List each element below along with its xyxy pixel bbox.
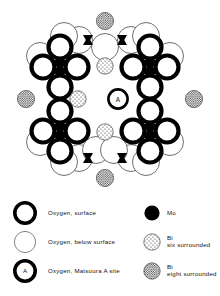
- oxygen-surface: [32, 56, 55, 79]
- bi-eight-surrounded: [96, 169, 113, 186]
- oxygen-surface: [139, 100, 162, 123]
- structure-diagram: A: [0, 0, 220, 196]
- legend-item-bi-six: Bi six surrounded: [167, 234, 210, 248]
- oxygen-surface: [49, 140, 72, 163]
- bi-eight-surrounded: [17, 90, 34, 107]
- matsuura-a-site-label: A: [116, 96, 121, 103]
- legend-label-bi-six-line2: six surrounded: [167, 241, 210, 248]
- oxygen-surface: [49, 36, 72, 59]
- legend-label-oxygen-surface: Oxygen, surface: [48, 209, 96, 216]
- bi-eight-surrounded: [185, 90, 202, 107]
- oxygen-surface: [139, 36, 162, 59]
- legend-item-oxygen-below-surface: Oxygen, below surface: [48, 238, 115, 245]
- legend-label-bi-eight-line2: eight surrounded: [167, 270, 217, 277]
- bi-eight-surrounded: [96, 12, 113, 29]
- oxygen-surface: [156, 56, 179, 79]
- legend-bi-eight-icon: [144, 263, 160, 279]
- oxygen-surface: [49, 76, 72, 99]
- structure-diagram-svg: A: [0, 0, 220, 196]
- legend-mo-icon: [144, 205, 159, 220]
- legend-label-mo: Mo: [167, 209, 176, 216]
- oxygen-surface: [122, 120, 145, 143]
- legend-bi-six-icon: [144, 234, 160, 250]
- legend-label-oxygen-below-surface: Oxygen, below surface: [48, 238, 115, 245]
- legend-label-bi-eight-line1: Bi: [167, 263, 173, 270]
- legend-label-oxygen-matsuura-a: Oxygen, Matsuura A site: [48, 267, 120, 274]
- oxygen-below-surface: [92, 34, 119, 61]
- legend-item-mo: Mo: [167, 209, 176, 216]
- legend-oxygen-surface-icon: [15, 203, 35, 223]
- oxygen-surface: [122, 56, 145, 79]
- oxygen-surface: [66, 120, 89, 143]
- matsuura-a-site: A: [108, 89, 127, 108]
- oxygen-surface: [49, 100, 72, 123]
- legend-label-bi-six-line1: Bi: [167, 234, 173, 241]
- bi-six-surrounded: [97, 58, 113, 74]
- figure-root: A A: [0, 0, 220, 296]
- legend-item-oxygen-matsuura-a: Oxygen, Matsuura A site: [48, 267, 120, 274]
- oxygen-surface: [139, 140, 162, 163]
- oxygen-surface: [32, 120, 55, 143]
- bi-six-surrounded: [70, 91, 86, 107]
- legend: A Oxygen, surface Oxygen, below surface …: [0, 196, 220, 296]
- legend-item-bi-eight: Bi eight surrounded: [167, 263, 217, 277]
- oxygen-surface: [139, 76, 162, 99]
- bi-six-surrounded: [97, 124, 113, 140]
- oxygen-surface-right-group: [122, 36, 179, 163]
- legend-item-oxygen-surface: Oxygen, surface: [48, 209, 96, 216]
- oxygen-surface: [156, 120, 179, 143]
- legend-oxygen-below-surface-icon: [14, 231, 35, 252]
- oxygen-surface: [66, 56, 89, 79]
